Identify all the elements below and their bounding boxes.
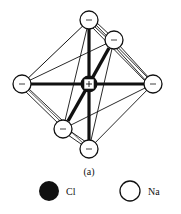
ion-front (54, 120, 72, 138)
center-ion (81, 76, 98, 93)
legend-label-cl: Cl (66, 186, 76, 197)
legend-item-cl: Cl (39, 181, 76, 201)
ion-bottom (80, 140, 98, 158)
ion-left (13, 75, 31, 93)
ion-back (105, 31, 123, 49)
legend-label-na: Na (148, 186, 160, 197)
open-circle-icon (120, 181, 140, 201)
filled-circle-icon (39, 181, 59, 201)
figure-caption: (a) (83, 166, 94, 178)
legend: Cl Na (39, 181, 160, 201)
octahedral-coordination-diagram: (a) Cl Na (0, 0, 181, 214)
ion-top (80, 11, 98, 29)
ion-right (144, 75, 162, 93)
legend-item-na: Na (120, 181, 160, 201)
